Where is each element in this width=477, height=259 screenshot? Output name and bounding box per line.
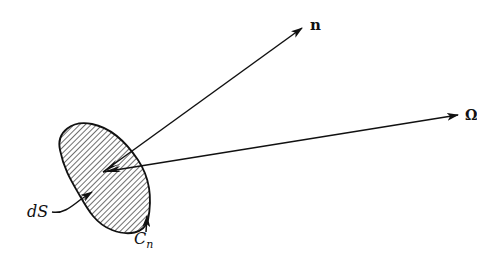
surface-patch	[59, 123, 149, 233]
surface-element-label: dS	[27, 202, 48, 221]
boundary-curve-letter: C	[134, 229, 146, 248]
boundary-curve-label: Cn	[134, 229, 153, 251]
normal-vector-arrow	[103, 28, 302, 172]
normal-vector-label: n	[310, 16, 321, 34]
omega-vector-label: Ω	[465, 107, 477, 123]
boundary-curve-subscript: n	[146, 238, 153, 251]
omega-vector-arrow	[103, 115, 458, 172]
